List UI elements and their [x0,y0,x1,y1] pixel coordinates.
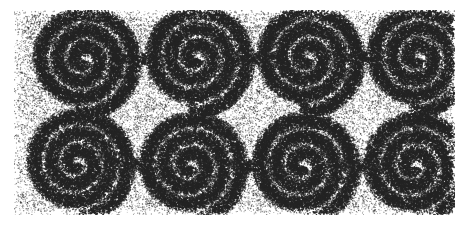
artwork-frame [0,0,470,229]
spiral-stipple-artwork [0,0,470,229]
